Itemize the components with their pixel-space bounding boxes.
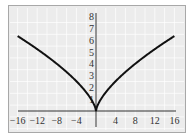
grid-lines [10, 8, 184, 130]
x-tick-label: −12 [29, 115, 45, 126]
x-tick-label: 16 [169, 115, 179, 126]
x-tick-label: −8 [51, 115, 62, 126]
x-tick-label: 12 [150, 115, 160, 126]
y-tick-label: 7 [89, 23, 94, 34]
y-tick-label: 4 [89, 58, 94, 69]
y-tick-label: 3 [89, 70, 94, 81]
x-tick-label: 8 [133, 115, 138, 126]
x-tick-label: 4 [113, 115, 118, 126]
y-tick-label: 6 [89, 35, 94, 46]
x-tick-label: −16 [10, 115, 26, 126]
y-tick-label: 2 [89, 82, 94, 93]
chart-svg: −16−12−8−448121612345678 [0, 0, 194, 138]
x-tick-label: −4 [71, 115, 82, 126]
y-tick-label: 8 [89, 11, 94, 22]
y-tick-label: 5 [89, 47, 94, 58]
